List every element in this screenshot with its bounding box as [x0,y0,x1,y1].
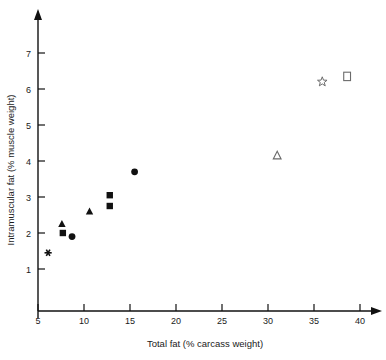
data-point-group [45,72,351,256]
x-tick-label: 40 [355,316,365,326]
y-tick-label: 6 [26,85,31,95]
data-point-triangle-open [273,151,281,159]
x-tick-label: 5 [35,316,40,326]
y-tick-label: 3 [26,193,31,203]
data-point-triangle-filled [86,207,93,214]
x-axis-arrow-icon [371,307,382,315]
x-tick-group: 510152025303540 [35,304,365,326]
data-point-star-open [318,77,328,86]
x-tick-label: 20 [171,316,181,326]
x-tick-label: 10 [79,316,89,326]
scatter-plot-figure: 1234567 510152025303540 Total fat (% car… [0,0,386,360]
y-axis-arrow-icon [34,9,42,20]
data-point-square-open [344,72,351,80]
y-tick-label: 1 [26,265,31,275]
x-tick-label: 15 [125,316,135,326]
x-tick-label: 25 [217,316,227,326]
y-tick-label: 2 [26,229,31,239]
y-axis-title: Intramuscular fat (% muscle weight) [5,95,16,246]
x-tick-label: 30 [263,316,273,326]
data-point-asterisk-filled [45,250,52,256]
y-tick-label: 7 [26,49,31,59]
data-point-square-filled [107,203,113,209]
data-point-circle-filled [69,233,76,240]
data-point-circle-filled [131,168,138,175]
x-axis-title: Total fat (% carcass weight) [147,338,263,349]
y-tick-label: 5 [26,121,31,131]
x-tick-label: 35 [309,316,319,326]
x-axis: 510152025303540 [35,304,382,326]
data-point-square-filled [107,192,113,198]
data-point-triangle-filled [58,220,65,227]
y-tick-group: 1234567 [26,49,45,275]
y-axis: 1234567 [26,9,45,318]
plot-canvas: 1234567 510152025303540 Total fat (% car… [0,0,386,360]
y-tick-label: 4 [26,157,31,167]
data-point-square-filled [60,230,66,236]
